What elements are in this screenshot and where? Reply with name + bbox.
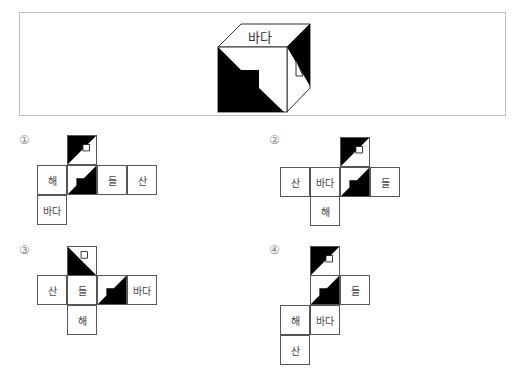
- pattern-face-a: [340, 137, 370, 167]
- option-2-number[interactable]: ②: [269, 133, 280, 147]
- face-cell: 산: [127, 165, 157, 195]
- face-cell: 바다: [310, 305, 340, 335]
- pattern-face-b: [310, 275, 340, 305]
- face-cell: 들: [97, 165, 127, 195]
- face-cell: 들: [340, 275, 370, 305]
- option-3-number[interactable]: ③: [19, 243, 30, 257]
- stair-pattern-icon: [98, 276, 126, 304]
- option-4-number[interactable]: ④: [269, 243, 280, 257]
- face-cell: 들: [67, 275, 97, 305]
- option-1-number[interactable]: ①: [19, 133, 30, 147]
- pattern-face-b: [67, 165, 97, 195]
- diagonal-notch-pattern-icon: [341, 138, 369, 166]
- face-cell: 해: [310, 196, 340, 226]
- pattern-face-a: [67, 246, 97, 276]
- diagonal-notch-pattern-icon: [68, 136, 96, 164]
- face-cell: 바다: [310, 167, 340, 197]
- face-cell: 들: [370, 167, 400, 197]
- face-cell: 해: [37, 165, 67, 195]
- diagonal-notch-pattern-icon: [311, 247, 339, 275]
- pattern-face-b: [340, 167, 370, 197]
- face-cell: 산: [280, 167, 310, 197]
- face-cell: 산: [37, 275, 67, 305]
- face-cell: 해: [280, 305, 310, 335]
- stair-pattern-icon: [341, 168, 369, 196]
- pattern-face-a: [310, 246, 340, 276]
- face-cell: 산: [280, 335, 310, 365]
- cube-figure: [0, 0, 517, 125]
- pattern-face-a: [67, 135, 97, 165]
- face-cell: 바다: [37, 195, 67, 225]
- diagonal-notch-pattern-icon: [68, 247, 96, 275]
- stair-pattern-icon: [68, 166, 96, 194]
- stair-pattern-icon: [311, 276, 339, 304]
- face-cell: 해: [67, 305, 97, 335]
- face-cell: 바다: [127, 275, 157, 305]
- cube-top-label: 바다: [248, 27, 272, 46]
- pattern-face-b: [97, 275, 127, 305]
